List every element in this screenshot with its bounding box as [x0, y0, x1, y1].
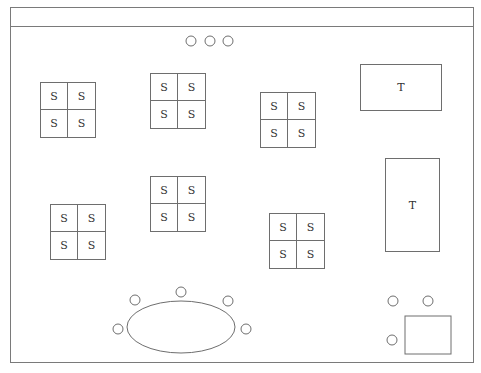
seat-cell: S: [68, 110, 95, 137]
seat-cell: S: [51, 205, 78, 232]
seat-cell: S: [178, 74, 205, 101]
seat-cell: S: [151, 177, 178, 204]
seat-block: SSSS: [150, 176, 206, 232]
table-rect: T: [385, 158, 440, 252]
seat-cell: S: [151, 74, 178, 101]
seat-block: SSSS: [40, 82, 96, 138]
stool-circle: [186, 36, 196, 46]
seat-cell: S: [41, 83, 68, 110]
seat-cell: S: [151, 204, 178, 231]
seat-cell: S: [78, 205, 105, 232]
chair-circle: [387, 335, 397, 345]
seat-cell: S: [297, 241, 324, 268]
chair-circle: [388, 296, 398, 306]
seat-cell: S: [151, 101, 178, 128]
chair-circle: [241, 324, 251, 334]
seat-cell: S: [288, 93, 315, 120]
seat-cell: S: [178, 101, 205, 128]
chair-circle: [113, 324, 123, 334]
seat-block: SSSS: [50, 204, 106, 260]
seat-block: SSSS: [260, 92, 316, 148]
seat-cell: S: [288, 120, 315, 147]
seat-cell: S: [297, 214, 324, 241]
seat-cell: S: [261, 120, 288, 147]
seat-cell: S: [178, 204, 205, 231]
chair-circle: [176, 287, 186, 297]
table-rect: T: [360, 64, 442, 111]
oval-table: [127, 301, 235, 353]
stool-circle: [223, 36, 233, 46]
seat-block: SSSS: [150, 73, 206, 129]
stool-circle: [205, 36, 215, 46]
seat-cell: S: [68, 83, 95, 110]
seat-cell: S: [270, 214, 297, 241]
seat-cell: S: [78, 232, 105, 259]
chair-circle: [423, 296, 433, 306]
seat-block: SSSS: [269, 213, 325, 269]
seat-cell: S: [261, 93, 288, 120]
chair-circle: [130, 295, 140, 305]
seat-cell: S: [270, 241, 297, 268]
seat-cell: S: [41, 110, 68, 137]
chair-circle: [223, 296, 233, 306]
seat-cell: S: [178, 177, 205, 204]
seat-cell: S: [51, 232, 78, 259]
corner-box: [405, 316, 451, 354]
